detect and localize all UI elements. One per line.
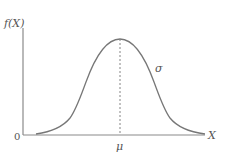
origin-label: 0 — [14, 131, 20, 142]
density-curve — [36, 39, 205, 134]
sigma-label: σ — [155, 62, 163, 75]
y-axis-label: f(X) — [3, 17, 25, 30]
mean-label: μ — [116, 140, 123, 153]
chart-canvas: f(X) 0 μ X σ — [0, 0, 246, 162]
x-axis-label: X — [207, 129, 217, 142]
normal-distribution-figure: f(X) 0 μ X σ — [0, 0, 246, 162]
